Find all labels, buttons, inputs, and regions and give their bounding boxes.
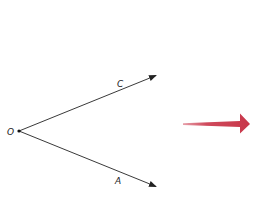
red-right-arrow-icon — [183, 114, 250, 134]
ray-a-label: A — [114, 176, 121, 186]
vertex-label: O — [7, 127, 14, 137]
ray-c-label: C — [117, 79, 124, 89]
angle-diagram: O C A — [0, 0, 278, 199]
ray-oc — [19, 76, 156, 132]
vertex-point — [17, 129, 20, 132]
ray-oa — [19, 131, 156, 187]
